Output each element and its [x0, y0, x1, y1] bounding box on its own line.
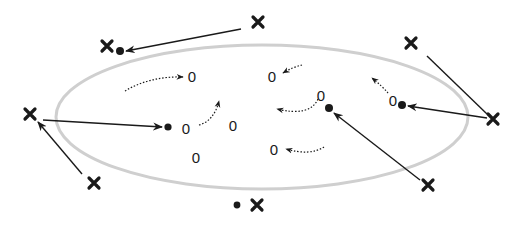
dot-5	[234, 202, 241, 209]
line-x4-to-x3	[427, 56, 487, 114]
dotted-arrow-5	[372, 78, 388, 93]
arrow-x5-to-dot2	[43, 120, 162, 127]
dot-1	[116, 47, 124, 55]
dots	[116, 47, 406, 208]
x-marker-1	[253, 17, 263, 27]
x-marker-8	[252, 200, 262, 210]
dotted-arrows	[125, 65, 388, 152]
x-marker-5	[25, 109, 35, 119]
zero-label-1: 0	[188, 68, 196, 85]
dot-2	[164, 123, 171, 130]
zero-label-2: 0	[268, 68, 276, 85]
zero-label-3: 0	[182, 120, 190, 137]
x-marker-4	[488, 114, 498, 124]
dot-3	[325, 104, 333, 112]
dotted-arrow-3	[283, 65, 302, 73]
x-marker-3	[406, 38, 416, 48]
solid-arrows	[38, 29, 487, 180]
dotted-arrow-1	[125, 77, 183, 91]
zero-label-8: 0	[270, 141, 278, 158]
diagram-canvas: 0 0 0 0 0 0 0 0	[0, 0, 524, 226]
x-marker-2	[102, 41, 112, 51]
zero-label-4: 0	[229, 117, 237, 134]
region-ellipse	[56, 45, 468, 189]
dotted-arrow-4	[277, 99, 318, 111]
dotted-arrow-2	[199, 101, 219, 125]
dot-4	[398, 101, 406, 109]
zero-label-6: 0	[389, 92, 397, 109]
dotted-arrow-6	[286, 147, 324, 152]
arrow-x7-to-dot3	[334, 113, 420, 180]
zero-labels: 0 0 0 0 0 0 0 0	[182, 68, 397, 166]
x-marker-7	[423, 180, 433, 190]
zero-label-5: 0	[317, 87, 325, 104]
arrow-x4-to-dot4	[408, 106, 487, 118]
x-marker-6	[89, 178, 99, 188]
zero-label-7: 0	[192, 149, 200, 166]
